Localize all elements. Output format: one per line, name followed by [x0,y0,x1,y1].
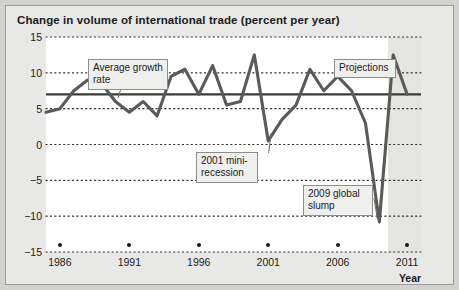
x-axis-tick-dot [127,243,131,247]
x-axis-tick-label: 2011 [396,256,419,268]
callout-projections: Projections [334,59,396,78]
y-axis-tick-label: −15 [24,246,42,258]
x-axis-tick-label: 1986 [48,256,71,268]
y-axis-tick-label: 0 [36,139,42,151]
x-axis-title: Year [399,272,421,284]
x-axis-tick-label: 2006 [326,256,349,268]
x-axis-labels: 198619911996200120062011 [46,256,421,272]
chart-title: Change in volume of international trade … [17,14,340,26]
callout-2001-mini-recession: 2001 mini- recession [196,152,258,183]
figure-container: Change in volume of international trade … [0,0,459,290]
y-axis-tick-label: 5 [36,103,42,115]
y-axis-tick-label: 15 [30,31,42,43]
y-axis-tick-label: −10 [24,210,42,222]
x-axis-tick-dots [46,240,421,252]
x-axis-tick-dot [405,243,409,247]
x-axis-tick-label: 1991 [118,256,141,268]
y-axis-labels: 151050−5−10−15 [0,37,42,252]
x-axis-tick-dot [336,243,340,247]
callout-average-growth-rate: Average growth rate [88,59,168,90]
x-axis-tick-label: 2001 [257,256,280,268]
x-axis-tick-label: 1996 [187,256,210,268]
callout-2009-global-slump: 2009 global slump [303,185,373,216]
y-axis-tick-label: 10 [30,67,42,79]
x-axis-tick-dot [266,243,270,247]
x-axis-tick-dot [197,243,201,247]
y-axis-tick-label: −5 [30,174,42,186]
x-axis-tick-dot [58,243,62,247]
